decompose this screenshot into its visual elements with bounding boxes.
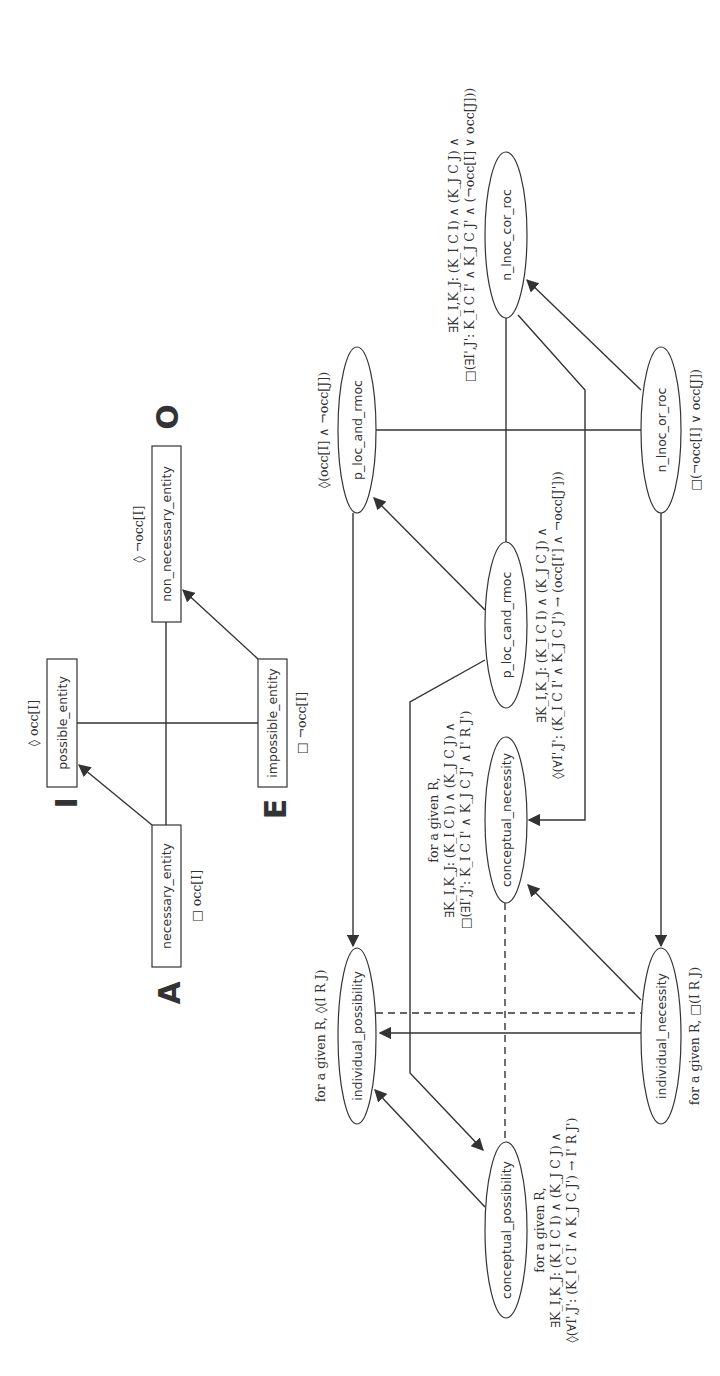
node-conceptual_necessity[interactable]: conceptual_necessity [485,737,527,903]
node-n_lnoc_cor_roc[interactable]: n_lnoc_cor_roc [485,152,527,318]
formula-conceptual_possibility-line3: ◊(∀I',J': (K_I C I' ∧ K_J C J') → I' R J… [564,1118,579,1343]
node-n_lnoc_or_roc[interactable]: n_lnoc_or_roc [641,347,681,513]
node-label: n_lnoc_cor_roc [499,189,514,281]
formula-individual_possibility: for a given R, ◊(I R J) [313,970,328,1103]
node-impossible-entity[interactable]: impossible_entity [258,659,287,787]
square-of-opposition: possible_entity ◊ occ[I] necessary_entit… [26,404,309,1004]
formula-conceptual_possibility-line2: ∃K_I,K_J: (K_I C I) ∧ (K_J C J) ∧ [548,1132,563,1327]
diagram-canvas: possible_entity ◊ occ[I] necessary_entit… [0,0,720,1376]
node-label: individual_possibility [350,971,365,1101]
node-label: conceptual_necessity [499,752,514,887]
node-label: individual_necessity [654,972,669,1098]
formula-p_loc_and_rmoc: ◊(occ[I] ∧ ¬occ[J]) [316,372,331,488]
node-label: non_necessary_entity [159,466,174,602]
corner-letter-A: A [152,981,187,1005]
node-possible-entity[interactable]: possible_entity [47,659,77,787]
corner-letter-I: I [49,797,84,808]
node-p_loc_and_rmoc[interactable]: p_loc_and_rmoc [338,347,376,513]
node-label: p_loc_cand_rmoc [499,572,514,679]
formula-p_loc_cand_rmoc-line1: ∃K_I,K_J: (K_I C I) ∧ (K_J C J) ∧ [534,527,549,722]
formula-conceptual_necessity-line2: ∃K_I,K_J: (K_I C I) ∧ (K_J C J) ∧ [442,722,457,917]
formula-n_lnoc_or_roc: □(¬occ[I] ∨ occ[J]) [688,369,703,491]
node-label: conceptual_possibility [499,1160,514,1298]
node-label: p_loc_and_rmoc [350,380,365,480]
arrow-conceptual_possibility-to-individual_possibility [375,1090,485,1207]
formula-possible-entity: ◊ occ[I] [26,700,41,746]
node-p_loc_cand_rmoc[interactable]: p_loc_cand_rmoc [485,542,527,708]
arrow-necessary-to-possible [79,765,152,825]
formula-p_loc_cand_rmoc-line2: ◊(∀I',J': (K_I C I' ∧ K_J C J') → (occ[I… [550,471,565,778]
node-label: necessary_entity [159,842,174,949]
corner-letter-O: O [150,404,185,430]
node-individual_possibility[interactable]: individual_possibility [338,948,376,1124]
relation-lattice: p_loc_and_rmoc ◊(occ[I] ∧ ¬occ[J]) n_lno… [313,88,703,1343]
formula-n_lnoc_cor_roc-line1: ∃K_I,K_J: (K_I C I) ∧ (K_J C J) ∧ [446,137,461,332]
corner-letter-E: E [258,799,293,820]
node-label: n_lnoc_or_roc [654,387,669,472]
formula-non-necessary-entity: ◊ ¬occ[I] [131,506,146,563]
node-necessary-entity[interactable]: necessary_entity [152,825,181,967]
formula-n_lnoc_cor_roc-line2: □(∃I',J': K_I C I' ∧ K_J C J' ∧ (¬occ[I]… [462,88,477,382]
node-non-necessary-entity[interactable]: non_necessary_entity [152,446,181,622]
arrow-individual_necessity-to-conceptual_necessity [528,885,641,1000]
formula-conceptual_necessity-line1: for a given R, [426,777,441,862]
node-conceptual_possibility[interactable]: conceptual_possibility [485,1142,527,1318]
formula-individual_necessity: for a given R, □(I R J) [687,967,702,1105]
arrow-n_lnoc_or_roc-to-n_lnoc_cor_roc [527,280,641,390]
node-label: possible_entity [55,676,70,770]
arrow-p_loc_cand_rmoc-to-p_loc_and_rmoc [374,498,485,610]
arrow-impossible-to-non-necessary [183,590,258,659]
formula-conceptual_necessity-line3: □(∃I',J': K_I C I' ∧ K_J C J' ∧ I' R J') [458,711,473,930]
formula-necessary-entity: □ occ[I] [189,870,204,922]
formula-impossible-entity: □ ¬occ[I] [294,692,309,754]
node-individual_necessity[interactable]: individual_necessity [641,948,681,1124]
node-label: impossible_entity [265,668,280,778]
formula-conceptual_possibility-line1: for a given R, [532,1187,547,1272]
